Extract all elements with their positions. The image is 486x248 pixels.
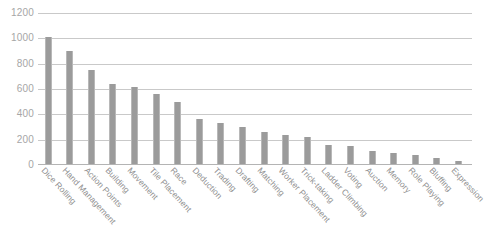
y-axis-tick-label: 0 [0,160,34,170]
bar [109,84,116,164]
x-axis-category-label: Expression [449,166,485,204]
bar [174,102,181,164]
y-axis-tick-label: 200 [0,135,34,145]
bar [217,123,224,164]
bar [261,132,268,164]
x-axis-category-labels: Dice RollingHand ManagementAction Points… [38,166,483,248]
bar [325,145,332,164]
bar [88,70,95,164]
y-axis-tick-label: 400 [0,109,34,119]
bar [390,153,397,164]
bar [304,137,311,164]
y-axis-tick-label: 600 [0,84,34,94]
bar [282,135,289,164]
bar [239,127,246,164]
plot-area [38,13,472,165]
bar-series [38,13,472,165]
axis-baseline [38,164,472,165]
bar [196,119,203,164]
bar [131,87,138,164]
y-axis-tick-label: 800 [0,59,34,69]
y-axis-tick-labels: 020040060080010001200 [0,0,34,248]
bar [347,146,354,164]
bar [153,94,160,164]
y-axis-tick-label: 1000 [0,33,34,43]
y-axis-tick-label: 1200 [0,8,34,18]
bar [66,51,73,164]
bar [45,37,52,164]
bar [369,151,376,164]
bar [412,155,419,164]
